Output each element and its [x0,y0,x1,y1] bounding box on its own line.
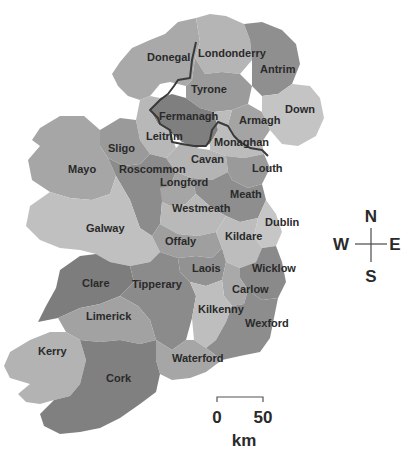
label-monaghan: Monaghan [214,136,269,148]
ireland-county-map: Donegal Londonderry Antrim Tyrone Down F… [0,0,411,458]
label-clare: Clare [82,277,110,289]
compass-east-label: E [389,235,400,254]
county-londonderry[interactable] [195,14,252,74]
label-offaly: Offaly [165,235,197,247]
label-leitrim: Leitrim [146,130,183,142]
label-limerick: Limerick [86,310,132,322]
label-carlow: Carlow [232,283,269,295]
label-westmeath: Westmeath [172,202,231,214]
scale-start-label: 0 [212,408,221,427]
scale-unit-label: km [232,431,257,450]
label-galway: Galway [86,222,125,234]
compass-south-label: S [365,267,376,286]
scale-bar: 0 50 km [212,397,272,450]
scale-bar-line [217,397,263,402]
scale-end-label: 50 [254,408,273,427]
label-kerry: Kerry [38,345,68,357]
label-wicklow: Wicklow [252,262,296,274]
label-tyrone: Tyrone [191,83,227,95]
label-fermanagh: Fermanagh [159,110,219,122]
label-sligo: Sligo [108,142,135,154]
compass-north-label: N [365,207,377,226]
label-waterford: Waterford [172,352,224,364]
label-londonderry: Londonderry [198,47,267,59]
label-laois: Laois [192,262,221,274]
label-armagh: Armagh [239,114,281,126]
label-tipperary: Tipperary [132,278,183,290]
label-kilkenny: Kilkenny [198,303,245,315]
label-down: Down [285,103,315,115]
label-cavan: Cavan [191,153,224,165]
compass-west-label: W [333,235,350,254]
label-antrim: Antrim [260,63,296,75]
label-louth: Louth [252,162,283,174]
label-mayo: Mayo [68,163,96,175]
label-cork: Cork [106,372,132,384]
label-kildare: Kildare [225,230,262,242]
label-donegal: Donegal [147,51,190,63]
compass-rose: N S W E [333,207,401,286]
label-wexford: Wexford [245,317,289,329]
label-roscommon: Roscommon [119,163,186,175]
label-longford: Longford [160,176,208,188]
label-meath: Meath [230,188,262,200]
label-dublin: Dublin [265,216,299,228]
